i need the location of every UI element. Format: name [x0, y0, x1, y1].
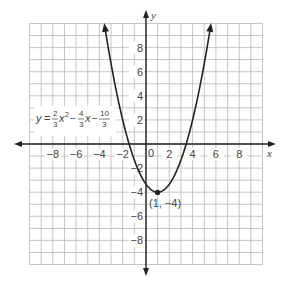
- svg-text:10: 10: [100, 109, 109, 118]
- x-tick-label: −4: [93, 148, 106, 160]
- svg-text:4: 4: [79, 109, 84, 118]
- parabola-chart: y x 0 −8−6−4−22468 8642−2−4−6−8 (1, −4) …: [0, 0, 288, 293]
- x-tick-label: 6: [213, 148, 219, 160]
- svg-text:=: =: [44, 112, 50, 124]
- x-tick-label: −8: [47, 148, 60, 160]
- svg-text:x: x: [84, 112, 91, 124]
- svg-text:3: 3: [102, 120, 107, 129]
- svg-text:−: −: [70, 113, 76, 124]
- svg-text:3: 3: [79, 120, 84, 129]
- y-tick-label: −6: [130, 210, 143, 222]
- svg-text:−: −: [92, 113, 98, 124]
- svg-text:2: 2: [65, 111, 69, 118]
- x-tick-label: 8: [236, 148, 242, 160]
- y-tick-label: 2: [137, 114, 143, 126]
- y-tick-label: −8: [130, 234, 143, 246]
- x-axis-label: x: [266, 147, 272, 159]
- x-tick-label: 4: [190, 148, 196, 160]
- y-tick-label: −4: [130, 186, 143, 198]
- origin-label: 0: [148, 147, 154, 159]
- y-tick-label: 4: [137, 90, 143, 102]
- vertex-point: [155, 190, 160, 195]
- y-tick-label: 8: [137, 42, 143, 54]
- svg-text:2: 2: [53, 109, 58, 118]
- x-tick-label: 2: [166, 148, 172, 160]
- vertex-label: (1, −4): [149, 197, 181, 209]
- y-axis-label: y: [150, 9, 156, 21]
- equation-label: y = 2 3 x 2 − 4 3 x − 10 3: [34, 106, 116, 136]
- x-tick-label: −2: [116, 148, 129, 160]
- svg-text:3: 3: [53, 120, 58, 129]
- y-tick-label: 6: [137, 66, 143, 78]
- x-tick-label: −6: [70, 148, 83, 160]
- svg-text:x: x: [58, 112, 65, 124]
- x-axis: [14, 141, 276, 147]
